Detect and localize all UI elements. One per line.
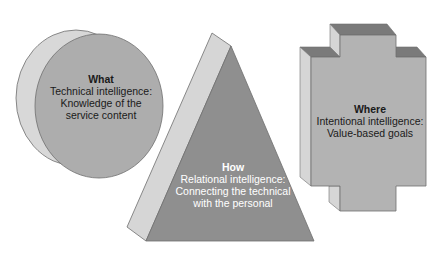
where-title: Where (310, 103, 430, 115)
how-label: How Relational intelligence: Connecting … (168, 161, 298, 209)
what-line-1: Technical intelligence: (38, 85, 164, 97)
what-line-2: Knowledge of the (38, 97, 164, 109)
how-title: How (168, 161, 298, 173)
where-line-2: Value-based goals (310, 127, 430, 139)
how-line-1: Relational intelligence: (168, 173, 298, 185)
how-line-2: Connecting the technical (168, 185, 298, 197)
how-line-3: with the personal (168, 197, 298, 209)
what-line-3: service content (38, 109, 164, 121)
what-label: What Technical intelligence: Knowledge o… (38, 73, 164, 121)
what-title: What (38, 73, 164, 85)
where-line-1: Intentional intelligence: (310, 115, 430, 127)
where-label: Where Intentional intelligence: Value-ba… (310, 103, 430, 139)
